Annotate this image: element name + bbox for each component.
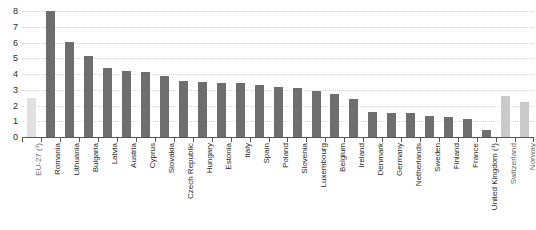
x-label-slot: Bulgaria [79, 143, 98, 230]
x-label-slot: Netherlands [401, 143, 420, 230]
y-tick-label: 4 [13, 70, 18, 79]
bar-slot [515, 11, 534, 137]
bar[interactable] [368, 112, 377, 137]
x-tick [250, 137, 251, 142]
x-tick [22, 137, 23, 142]
x-tick [231, 137, 232, 142]
x-tick [533, 137, 534, 142]
x-label-slot: Italy [231, 143, 250, 230]
x-label-slot: Luxembourg [307, 143, 326, 230]
bar-slot [496, 11, 515, 137]
chart-title-remnant [0, 0, 536, 4]
y-tick-label: 5 [13, 54, 18, 63]
bar-slot [250, 11, 269, 137]
bar[interactable] [236, 83, 245, 137]
bar[interactable] [482, 130, 491, 137]
bar-slot [344, 11, 363, 137]
x-tick [212, 137, 213, 142]
bar[interactable] [387, 113, 396, 137]
bar[interactable] [293, 88, 302, 137]
bar[interactable] [501, 96, 510, 137]
x-label-slot: EU-27 (¹) [22, 143, 41, 230]
x-tick [287, 137, 288, 142]
bar[interactable] [179, 81, 188, 137]
x-label-slot: Hungary [193, 143, 212, 230]
bar-slot [458, 11, 477, 137]
bar-slot [288, 11, 307, 137]
x-tick [325, 137, 326, 142]
bar[interactable] [122, 71, 131, 137]
bar-slot [382, 11, 401, 137]
y-tick-label: 3 [13, 85, 18, 94]
bar[interactable] [27, 98, 36, 137]
bar[interactable] [520, 102, 529, 137]
x-label-slot: Belgium [326, 143, 345, 230]
bar-slot [401, 11, 420, 137]
bar-slot [420, 11, 439, 137]
bar-slot [41, 11, 60, 137]
x-label-slot: Lithuania [60, 143, 79, 230]
bar-series [22, 11, 534, 137]
bar[interactable] [160, 76, 169, 137]
x-tick [60, 137, 61, 142]
bar[interactable] [46, 11, 55, 137]
bar[interactable] [312, 91, 321, 137]
bar[interactable] [217, 83, 226, 137]
x-label-slot: Austria [117, 143, 136, 230]
x-label-slot: Ireland [344, 143, 363, 230]
bar-slot [193, 11, 212, 137]
bar-slot [231, 11, 250, 137]
x-label-slot: Estonia [212, 143, 231, 230]
bar[interactable] [65, 42, 74, 137]
x-axis-label: Norway [528, 143, 536, 170]
x-label-slot: Germany [382, 143, 401, 230]
x-label-slot: Poland [269, 143, 288, 230]
x-label-slot: Denmark [363, 143, 382, 230]
bar-slot [60, 11, 79, 137]
bar[interactable] [103, 68, 112, 137]
x-label-slot: Norway [515, 143, 534, 230]
x-label-slot: Slovenia [288, 143, 307, 230]
x-tick [439, 137, 440, 142]
bar[interactable] [141, 72, 150, 137]
y-tick-label: 7 [13, 22, 18, 31]
bar[interactable] [444, 117, 453, 137]
y-axis: 012345678 [0, 11, 18, 137]
x-tick [401, 137, 402, 142]
y-tick-label: 6 [13, 38, 18, 47]
bar[interactable] [274, 87, 283, 137]
bar-slot [79, 11, 98, 137]
y-tick-label: 2 [13, 101, 18, 110]
bar-slot [212, 11, 231, 137]
x-tick [136, 137, 137, 142]
x-tick [155, 137, 156, 142]
x-tick [41, 137, 42, 142]
bar-slot [363, 11, 382, 137]
x-label-slot: Switzerland [496, 143, 515, 230]
bar[interactable] [330, 94, 339, 137]
x-label-slot: Slovakia [155, 143, 174, 230]
bar[interactable] [425, 116, 434, 137]
bar[interactable] [406, 113, 415, 137]
x-tick [420, 137, 421, 142]
x-tick [382, 137, 383, 142]
x-tick [496, 137, 497, 142]
bar[interactable] [463, 119, 472, 137]
x-tick [477, 137, 478, 142]
x-axis-labels: EU-27 (¹)RomaniaLithuaniaBulgariaLatviaA… [22, 143, 534, 230]
bar-slot [117, 11, 136, 137]
bar[interactable] [84, 56, 93, 137]
bar-slot [174, 11, 193, 137]
bar[interactable] [255, 85, 264, 137]
bar-slot [22, 11, 41, 137]
bar[interactable] [349, 99, 358, 137]
bar[interactable] [198, 82, 207, 137]
x-label-slot: Latvia [98, 143, 117, 230]
x-tick [193, 137, 194, 142]
bar-slot [269, 11, 288, 137]
y-tick-label: 1 [13, 117, 18, 126]
bar-slot [477, 11, 496, 137]
x-tick [79, 137, 80, 142]
x-tick [515, 137, 516, 142]
x-tick [363, 137, 364, 142]
